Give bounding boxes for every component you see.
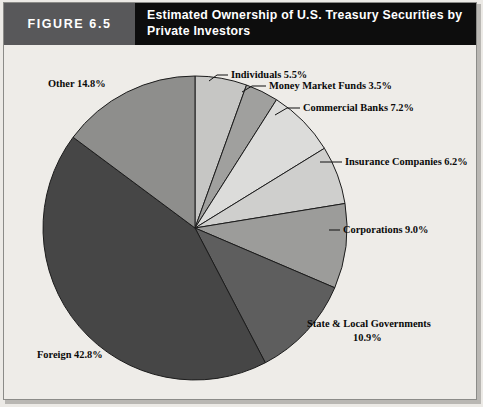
pie-chart: Individuals 5.5% Money Market Funds 3.5%… [4,45,476,397]
figure-header-bar: FIGURE 6.5 Estimated Ownership of U.S. T… [4,3,476,45]
pie-chart-svg: Individuals 5.5% Money Market Funds 3.5%… [4,45,476,397]
label-state-local-governments: State & Local Governments [307,318,431,329]
label-insurance-companies: Insurance Companies 6.2% [345,156,468,167]
pie-slice-group [43,76,347,380]
figure-title-line-1: Estimated Ownership of U.S. Treasury Sec… [147,8,467,24]
label-money-market-funds: Money Market Funds 3.5% [269,80,392,91]
figure-container: FIGURE 6.5 Estimated Ownership of U.S. T… [0,0,483,407]
figure-title-line-2: Private Investors [147,24,467,40]
figure-number-badge: FIGURE 6.5 [4,3,135,45]
label-individuals: Individuals 5.5% [231,69,307,80]
label-state-local-governments-value: 10.9% [353,332,382,343]
label-foreign: Foreign 42.8% [37,349,103,360]
figure-number-label: FIGURE 6.5 [27,17,111,31]
label-other: Other 14.8% [48,78,106,89]
label-commercial-banks: Commercial Banks 7.2% [303,102,414,113]
label-corporations: Corporations 9.0% [343,224,428,235]
figure-title: Estimated Ownership of U.S. Treasury Sec… [147,8,467,39]
